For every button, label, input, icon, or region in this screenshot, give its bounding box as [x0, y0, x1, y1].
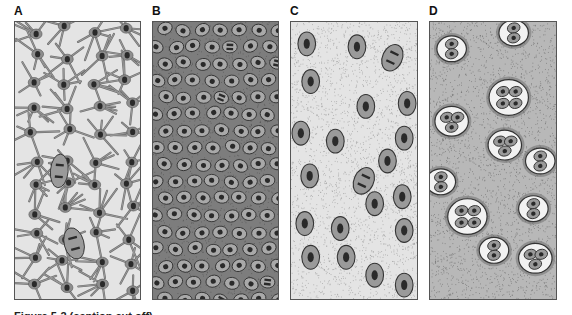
- panel-label-c: C: [290, 4, 299, 18]
- nucleus: [399, 192, 405, 202]
- cell: [302, 70, 320, 94]
- nucleus: [256, 231, 261, 236]
- nucleus: [124, 180, 129, 186]
- nucleus: [125, 52, 130, 58]
- nucleus: [32, 79, 37, 85]
- cell: [301, 164, 319, 188]
- nucleus: [64, 284, 69, 290]
- nucleus: [129, 159, 134, 165]
- nucleus: [128, 261, 133, 267]
- nucleus: [122, 77, 127, 83]
- cell: [395, 273, 413, 297]
- cell: [196, 91, 211, 103]
- nucleus: [130, 100, 135, 106]
- nucleus: [401, 133, 407, 143]
- cell: [395, 126, 413, 150]
- nucleus: [66, 179, 71, 185]
- lacuna-group: [448, 199, 487, 235]
- nucleus: [343, 252, 349, 262]
- cell: [204, 174, 219, 187]
- panel-b-drawing: [152, 21, 279, 300]
- cell: [366, 263, 384, 287]
- panel-d-illustration: [430, 22, 556, 299]
- cell: [366, 192, 384, 216]
- nucleus: [67, 126, 72, 132]
- panel-a-illustration: [15, 22, 140, 299]
- nucleus: [404, 98, 410, 108]
- cell: [331, 217, 349, 241]
- nucleus: [34, 230, 39, 236]
- cell: [187, 175, 202, 187]
- cell: [395, 219, 413, 243]
- nucleus: [100, 281, 105, 287]
- nucleus: [97, 103, 102, 109]
- nucleus: [401, 225, 407, 235]
- cell: [379, 149, 397, 173]
- nucleus: [98, 131, 103, 137]
- nucleus: [384, 156, 390, 166]
- nucleus: [32, 211, 37, 217]
- panel-a-drawing: [14, 21, 141, 300]
- cell: [196, 159, 211, 172]
- panel-label-d: D: [429, 4, 438, 18]
- panel-label-b: B: [152, 4, 161, 18]
- nucleus: [100, 53, 105, 59]
- nucleus: [337, 224, 343, 234]
- nucleus: [32, 281, 37, 287]
- nucleus: [92, 29, 97, 35]
- panel-d-drawing: [429, 21, 557, 300]
- nucleus: [124, 25, 129, 31]
- nucleus: [372, 270, 378, 280]
- cell: [185, 107, 200, 119]
- nucleus: [100, 259, 105, 265]
- nucleus: [63, 204, 68, 210]
- nucleus: [354, 42, 360, 52]
- panel-c-illustration: [291, 22, 417, 299]
- nucleus: [93, 160, 98, 166]
- nucleus: [34, 31, 39, 37]
- chromosome: [226, 48, 233, 51]
- nucleus: [298, 128, 304, 138]
- cell: [292, 121, 310, 145]
- cell: [224, 75, 239, 88]
- cell-body: [222, 41, 237, 54]
- nucleus: [92, 182, 97, 188]
- nucleus: [332, 136, 338, 146]
- cell: [260, 174, 275, 187]
- nucleus: [304, 39, 310, 49]
- cell: [176, 92, 191, 104]
- nucleus: [308, 77, 314, 87]
- cell: [337, 245, 355, 269]
- nucleus: [91, 81, 96, 87]
- cell: [357, 94, 375, 118]
- nucleus: [32, 105, 37, 111]
- cell: [222, 41, 237, 54]
- nucleus: [131, 203, 136, 209]
- lacuna-group: [489, 80, 528, 116]
- nucleus: [65, 106, 70, 112]
- cell: [204, 41, 219, 54]
- nucleus: [33, 254, 38, 260]
- cell: [326, 129, 344, 153]
- nucleus: [94, 229, 99, 235]
- nucleus: [130, 288, 135, 294]
- nucleus: [308, 252, 314, 262]
- cell: [250, 157, 265, 170]
- nucleus: [401, 280, 407, 290]
- nucleus: [97, 210, 102, 216]
- cell: [302, 245, 320, 269]
- cell: [260, 209, 275, 221]
- nucleus: [59, 257, 64, 263]
- figure-caption: Figure 5-2 (caption cut off): [14, 308, 153, 315]
- nucleus: [35, 159, 40, 165]
- nucleus: [302, 219, 308, 229]
- nucleus: [372, 199, 378, 209]
- nucleus: [130, 129, 135, 135]
- cell: [398, 91, 416, 115]
- cell: [348, 35, 366, 59]
- cell: [393, 185, 411, 209]
- nucleus: [35, 51, 40, 57]
- panel-b-illustration: [153, 22, 278, 299]
- nucleus: [33, 181, 38, 187]
- cell: [296, 212, 314, 236]
